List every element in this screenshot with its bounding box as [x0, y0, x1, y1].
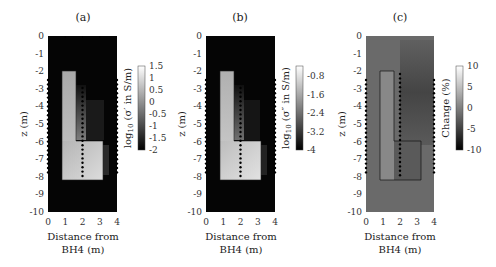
- svg-text:-1: -1: [35, 49, 44, 59]
- svg-text:-10: -10: [188, 207, 203, 217]
- svg-text:-1.5: -1.5: [149, 133, 167, 143]
- panel-b-xlabel-line1: Distance from: [205, 231, 277, 242]
- panel-a-x-ticks: 0 1 2 3 4: [45, 217, 120, 227]
- panel-c-target-block: [394, 141, 421, 180]
- svg-text:-0.5: -0.5: [149, 109, 167, 119]
- svg-text:-10: -10: [348, 207, 363, 217]
- svg-text:3: 3: [97, 217, 103, 227]
- panel-c: (c) 0 -1 -2 -3 -4 -5 -6 -7 -8 -: [336, 11, 482, 255]
- svg-text:-9: -9: [353, 189, 362, 199]
- panel-c-xlabel-line2: BH4 (m): [379, 244, 422, 255]
- svg-text:3: 3: [255, 217, 261, 227]
- panel-a: (a) 0 -1 -2 -3 -: [18, 11, 167, 255]
- panel-c-colorbar-label: Change (%): [440, 78, 451, 137]
- svg-text:-6: -6: [193, 137, 202, 147]
- svg-text:0: 0: [38, 31, 44, 41]
- svg-text:-9: -9: [35, 189, 44, 199]
- svg-text:-2.4: -2.4: [307, 108, 325, 118]
- svg-text:-2: -2: [353, 66, 362, 76]
- svg-text:0: 0: [196, 31, 202, 41]
- panel-c-x-ticks: 0 1 2 3 4: [363, 217, 437, 227]
- svg-text:0.5: 0.5: [149, 85, 164, 95]
- panel-c-title: (c): [393, 11, 408, 24]
- panel-c-xlabel-line1: Distance from: [364, 231, 436, 242]
- svg-text:1: 1: [220, 217, 226, 227]
- svg-text:-2: -2: [193, 66, 202, 76]
- panel-a-title: (a): [75, 11, 90, 24]
- panel-b-xlabel-line2: BH4 (m): [220, 244, 263, 255]
- svg-text:-7: -7: [35, 154, 44, 164]
- svg-text:4: 4: [272, 217, 278, 227]
- svg-text:-2: -2: [35, 66, 44, 76]
- svg-text:5: 5: [467, 82, 473, 92]
- svg-text:-4: -4: [193, 101, 202, 111]
- panel-b-colorbar: [296, 66, 303, 150]
- svg-text:1: 1: [149, 73, 155, 83]
- svg-text:-9: -9: [193, 189, 202, 199]
- svg-text:-1.6: -1.6: [307, 90, 325, 100]
- svg-text:-1: -1: [353, 49, 362, 59]
- figure: (a) 0 -1 -2 -3 -: [0, 0, 496, 267]
- svg-text:-1: -1: [193, 49, 202, 59]
- svg-text:-7: -7: [353, 154, 362, 164]
- panel-b-target-block: [220, 141, 261, 180]
- svg-text:-3: -3: [193, 84, 202, 94]
- svg-text:-6: -6: [353, 137, 362, 147]
- svg-text:1: 1: [380, 217, 386, 227]
- svg-text:-8: -8: [193, 172, 202, 182]
- svg-text:0: 0: [467, 103, 473, 113]
- svg-text:-8: -8: [35, 172, 44, 182]
- svg-text:-4: -4: [353, 101, 362, 111]
- svg-text:10: 10: [467, 61, 479, 71]
- svg-text:-4: -4: [35, 101, 44, 111]
- panel-b-y-ticks: 0 -1 -2 -3 -4 -5 -6 -7 -8 -9 -10: [188, 31, 203, 217]
- svg-text:-6: -6: [35, 137, 44, 147]
- svg-text:-8: -8: [353, 172, 362, 182]
- panel-c-colorbar: [456, 66, 463, 150]
- panel-b-title: (b): [232, 11, 248, 24]
- svg-text:-2: -2: [149, 145, 158, 155]
- svg-text:0: 0: [363, 217, 369, 227]
- svg-text:3: 3: [414, 217, 420, 227]
- svg-text:-10: -10: [30, 207, 45, 217]
- svg-text:0: 0: [356, 31, 362, 41]
- panel-a-xlabel-line2: BH4 (m): [62, 244, 105, 255]
- panel-b-x-ticks: 0 1 2 3 4: [203, 217, 278, 227]
- svg-text:0: 0: [45, 217, 51, 227]
- svg-text:-3: -3: [35, 84, 44, 94]
- panel-b: (b) 0 -1 -2 -3 -4 -5 -6 -7: [176, 11, 325, 255]
- panel-a-xlabel-line1: Distance from: [47, 231, 119, 242]
- svg-text:2: 2: [238, 217, 244, 227]
- svg-text:1.5: 1.5: [149, 61, 164, 71]
- svg-text:-1: -1: [149, 121, 158, 131]
- panel-c-y-ticks: 0 -1 -2 -3 -4 -5 -6 -7 -8 -9 -10: [348, 31, 363, 217]
- svg-text:-4: -4: [307, 145, 316, 155]
- panel-c-ylabel: z (m): [336, 111, 347, 137]
- svg-text:-5: -5: [467, 124, 476, 134]
- svg-text:-3.2: -3.2: [307, 127, 324, 137]
- panel-b-colorbar-ticks: -0.8 -1.6 -2.4 -3.2 -4: [307, 71, 325, 155]
- svg-text:2: 2: [397, 217, 403, 227]
- panel-a-colorbar: [138, 66, 145, 150]
- svg-text:0: 0: [203, 217, 209, 227]
- svg-text:-0.8: -0.8: [307, 71, 325, 81]
- panel-c-target-column: [380, 71, 394, 180]
- panel-a-ylabel: z (m): [18, 111, 29, 137]
- svg-text:1: 1: [62, 217, 68, 227]
- panel-b-ylabel: z (m): [176, 111, 187, 137]
- svg-text:-7: -7: [193, 154, 202, 164]
- panel-a-colorbar-label: log10 (σ′ in S/m): [122, 68, 135, 148]
- svg-text:4: 4: [431, 217, 437, 227]
- panel-a-smear: [76, 85, 86, 140]
- svg-text:2: 2: [80, 217, 86, 227]
- svg-text:-10: -10: [467, 145, 482, 155]
- svg-text:-3: -3: [353, 84, 362, 94]
- panel-a-target-block: [62, 141, 103, 180]
- panel-c-negative-zone: [400, 40, 434, 145]
- svg-text:4: 4: [114, 217, 120, 227]
- svg-text:-5: -5: [353, 119, 362, 129]
- svg-text:-5: -5: [193, 119, 202, 129]
- panel-a-colorbar-ticks: 1.5 1 0.5 0 -0.5 -1 -1.5 -2: [149, 61, 167, 155]
- svg-text:0: 0: [149, 97, 155, 107]
- svg-text:-5: -5: [35, 119, 44, 129]
